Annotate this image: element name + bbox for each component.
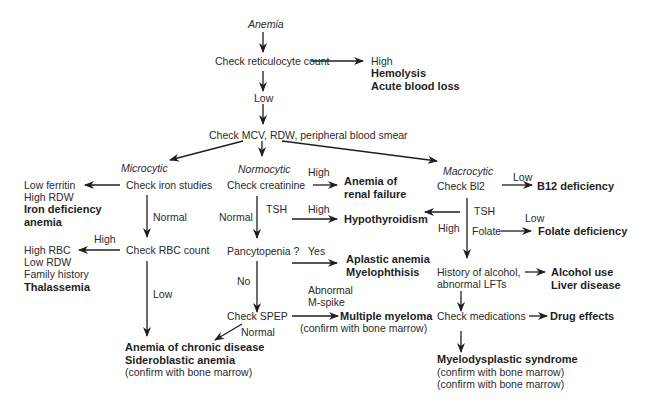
iron-deficiency-findings: Low ferritin High RDW [24, 179, 75, 203]
myeloma-confirm-note: (confirm with bone marrow) [300, 322, 427, 334]
check-iron-studies-node: Check iron studies [126, 179, 212, 191]
spep-normal-label: Normal [241, 326, 275, 338]
result-alcohol-liver: Alcohol use Liver disease [551, 266, 621, 291]
rbc-low-label: Low [153, 288, 172, 300]
b12-low-label: Low [513, 171, 532, 183]
retic-high-results: Hemolysis Acute blood loss [371, 67, 460, 92]
creatinine-normal-label: Normal [219, 211, 253, 223]
check-creatinine-node: Check creatinine [227, 179, 305, 191]
result-liver-disease: Liver disease [551, 279, 621, 292]
result-line: renal failure [344, 188, 406, 201]
category-microcytic: Microcytic [121, 162, 168, 174]
folate-label: Folate [472, 225, 501, 237]
result-thalassemia: Thalassemia [24, 281, 90, 294]
result-multiple-myeloma: Multiple myeloma [340, 310, 432, 323]
result-acute-blood-loss: Acute blood loss [371, 80, 460, 93]
result-line: Anemia of [344, 175, 406, 188]
pancytopenia-node: Pancytopenia ? [227, 245, 299, 257]
confirm-note: (confirm with bone marrow) [437, 366, 564, 378]
result-hypothyroidism: Hypothyroidism [344, 213, 428, 226]
macro-tsh-label: TSH [474, 205, 495, 217]
thalassemia-findings: High RBC Low RDW Family history [24, 244, 89, 280]
result-chronic-disease-line: Anemia of chronic disease [125, 341, 264, 354]
macro-tsh-high-label: High [438, 222, 460, 234]
retic-low-label: Low [254, 92, 273, 104]
finding-low-ferritin: Low ferritin [24, 179, 75, 191]
category-macrocytic: Macrocytic [443, 165, 493, 177]
chronic-confirm-note: (confirm with bone marrow) [125, 366, 252, 378]
iron-normal-label: Normal [153, 211, 187, 223]
result-hemolysis: Hemolysis [371, 67, 460, 80]
abnormal-m-spike-label: Abnormal M-spike [308, 284, 353, 308]
finding-family-history: Family history [24, 268, 89, 280]
finding-low-rdw: Low RDW [24, 256, 89, 268]
result-iron-deficiency-anemia: Iron deficiency anemia [24, 203, 102, 228]
result-line: Myelophthisis [346, 266, 430, 279]
check-reticulocyte-node: Check reticulocyte count [215, 55, 329, 67]
label-line: M-spike [308, 296, 353, 308]
category-normocytic: Normocytic [238, 163, 291, 175]
label-line: abnormal LFTs [437, 278, 520, 290]
retic-high-label: High [371, 55, 393, 67]
result-myelodysplastic-syndrome: Myelodysplastic syndrome [437, 353, 578, 366]
result-line: Iron deficiency [24, 203, 102, 216]
result-line: Aplastic anemia [346, 253, 430, 266]
creatinine-high-label: High [308, 166, 330, 178]
result-sideroblastic-line: Sideroblastic anemia [125, 354, 264, 367]
result-chronic-disease: Anemia of chronic disease Sideroblastic … [125, 341, 264, 366]
pancytopenia-no-label: No [237, 275, 250, 287]
rbc-high-label: High [94, 233, 116, 245]
tsh-label: TSH [266, 203, 287, 215]
folate-low-label: Low [525, 212, 544, 224]
result-aplastic-anemia: Aplastic anemia Myelophthisis [346, 253, 430, 278]
anemia-flowchart: Anemia Check reticulocyte count High Hem… [0, 0, 649, 416]
result-b12-deficiency: B12 deficiency [537, 180, 614, 193]
check-rbc-count-node: Check RBC count [126, 244, 209, 256]
check-mcv-node: Check MCV, RDW, peripheral blood smear [209, 129, 408, 141]
check-medications-node: Check medications [437, 310, 526, 322]
result-renal-failure: Anemia of renal failure [344, 175, 406, 200]
result-folate-deficiency: Folate deficiency [538, 225, 627, 238]
result-alcohol-use: Alcohol use [551, 266, 621, 279]
label-line: Abnormal [308, 284, 353, 296]
mds-confirm-notes: (confirm with bone marrow) (confirm with… [437, 366, 564, 390]
finding-high-rdw: High RDW [24, 191, 75, 203]
alcohol-history-node: History of alcohol, abnormal LFTs [437, 266, 520, 290]
check-spep-node: Check SPEP [227, 310, 288, 322]
label-line: History of alcohol, [437, 266, 520, 278]
result-drug-effects: Drug effects [550, 310, 614, 323]
result-line: anemia [24, 216, 102, 229]
check-b12-node: Check Bl2 [437, 180, 485, 192]
root-anemia: Anemia [248, 18, 284, 30]
tsh-high-label: High [308, 203, 330, 215]
pancytopenia-yes-label: Yes [308, 245, 325, 257]
finding-high-rbc: High RBC [24, 244, 89, 256]
confirm-note: (confirm with bone marrow) [437, 378, 564, 390]
